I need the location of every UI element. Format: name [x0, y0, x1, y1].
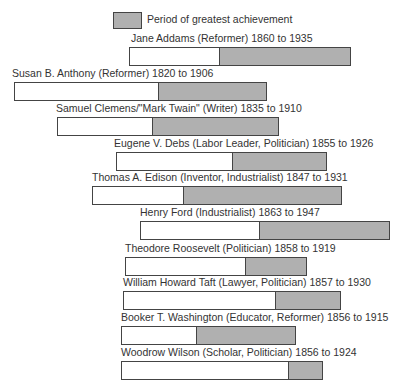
row-label: Susan B. Anthony (Reformer) 1820 to 1906 [12, 67, 213, 80]
achievement-segment [158, 83, 266, 100]
achievement-segment [288, 362, 322, 379]
row-label: Samuel Clemens/"Mark Twain" (Writer) 183… [56, 102, 302, 115]
achievement-segment [196, 327, 295, 344]
row-label: Jane Addams (Reformer) 1860 to 1935 [131, 32, 313, 45]
legend-label: Period of greatest achievement [147, 12, 292, 27]
timeline-bar [57, 117, 279, 136]
timeline-bar [116, 152, 327, 171]
achievement-segment [275, 292, 340, 309]
timeline-bar [125, 257, 307, 276]
timeline-bar [92, 186, 342, 205]
row-label: Woodrow Wilson (Scholar, Politician) 185… [121, 346, 357, 359]
timeline-bar [121, 361, 323, 380]
row-label: William Howard Taft (Lawyer, Politician)… [123, 276, 371, 289]
achievement-segment [152, 118, 278, 135]
achievement-segment [245, 258, 306, 275]
row-label: Henry Ford (Industrialist) 1863 to 1947 [140, 206, 320, 219]
achievement-segment [232, 153, 326, 170]
achievement-segment [259, 222, 389, 239]
legend-swatch [113, 12, 142, 29]
row-label: Eugene V. Debs (Labor Leader, Politician… [114, 137, 373, 150]
timeline-bar [140, 221, 390, 240]
achievement-segment [183, 187, 341, 204]
timeline-bar [14, 82, 267, 101]
row-label: Booker T. Washington (Educator, Reformer… [121, 311, 388, 324]
timeline-bar [121, 326, 296, 345]
timeline-bar [129, 47, 351, 66]
achievement-segment [219, 48, 350, 65]
timeline-bar [123, 291, 341, 310]
row-label: Thomas A. Edison (Inventor, Industrialis… [92, 171, 348, 184]
row-label: Theodore Roosevelt (Politician) 1858 to … [125, 242, 336, 255]
